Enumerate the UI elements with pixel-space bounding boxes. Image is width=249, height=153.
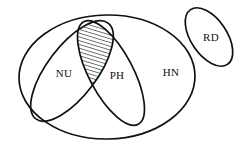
region-label-rd: RD: [203, 31, 219, 43]
region-label-hn: HN: [163, 66, 180, 78]
region-label-nu: NU: [56, 67, 73, 79]
region-label-ph: PH: [110, 69, 125, 81]
venn-diagram-svg: NU PH HN RD: [0, 0, 249, 153]
venn-diagram-canvas: NU PH HN RD: [0, 0, 249, 153]
